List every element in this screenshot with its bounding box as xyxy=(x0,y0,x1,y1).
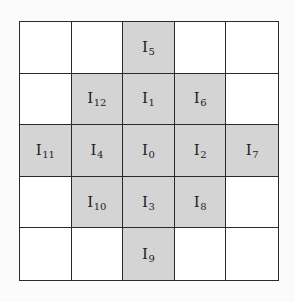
grid-cell-I1: I1 xyxy=(123,74,175,126)
cell-label: I10 xyxy=(87,193,106,212)
grid-cell-r2-c1 xyxy=(20,74,72,126)
grid-cell-I0: I0 xyxy=(123,125,175,177)
cell-label: I0 xyxy=(142,141,155,160)
cell-label: I3 xyxy=(142,193,155,212)
cell-label xyxy=(252,193,253,212)
grid-cell-I12: I12 xyxy=(72,74,124,126)
cell-label xyxy=(200,245,201,264)
cell-label: I9 xyxy=(142,245,155,264)
grid-cell-r5-c4 xyxy=(175,228,227,280)
grid-cell-I2: I2 xyxy=(175,125,227,177)
cell-label: I12 xyxy=(87,89,106,108)
cell-label xyxy=(45,193,46,212)
grid-cell-r5-c2 xyxy=(72,228,124,280)
grid-cell-r4-c5 xyxy=(226,177,278,229)
cell-label: I11 xyxy=(36,141,55,160)
cell-label xyxy=(45,245,46,264)
cell-label xyxy=(97,38,98,57)
cell-label: I8 xyxy=(194,193,207,212)
grid-cell-I5: I5 xyxy=(123,22,175,74)
cell-label xyxy=(252,38,253,57)
grid-cell-r1-c5 xyxy=(226,22,278,74)
cell-label: I1 xyxy=(142,89,155,108)
cell-label xyxy=(45,38,46,57)
cell-label xyxy=(200,38,201,57)
grid-cell-r5-c5 xyxy=(226,228,278,280)
cell-label xyxy=(45,89,46,108)
cell-label xyxy=(97,245,98,264)
grid-cell-I6: I6 xyxy=(175,74,227,126)
grid-cell-I11: I11 xyxy=(20,125,72,177)
grid-cell-r5-c1 xyxy=(20,228,72,280)
cell-label xyxy=(252,245,253,264)
cell-label: I4 xyxy=(90,141,103,160)
grid-cell-r2-c5 xyxy=(226,74,278,126)
grid-cell-I4: I4 xyxy=(72,125,124,177)
cell-label: I2 xyxy=(194,141,207,160)
grid-cell-r4-c1 xyxy=(20,177,72,229)
pixel-neighborhood-grid: I5 I12 I1 I6 I11 I4 I0 I2 I7 I10 I3 I8 I… xyxy=(19,21,279,281)
grid-cell-I7: I7 xyxy=(226,125,278,177)
grid-cell-I3: I3 xyxy=(123,177,175,229)
cell-label xyxy=(252,89,253,108)
cell-label: I5 xyxy=(142,38,155,57)
grid-cell-I9: I9 xyxy=(123,228,175,280)
grid-cell-r1-c2 xyxy=(72,22,124,74)
cell-label: I6 xyxy=(194,89,207,108)
cell-label: I7 xyxy=(246,141,259,160)
grid-cell-I10: I10 xyxy=(72,177,124,229)
grid-cell-r1-c1 xyxy=(20,22,72,74)
grid-cell-I8: I8 xyxy=(175,177,227,229)
grid-cell-r1-c4 xyxy=(175,22,227,74)
